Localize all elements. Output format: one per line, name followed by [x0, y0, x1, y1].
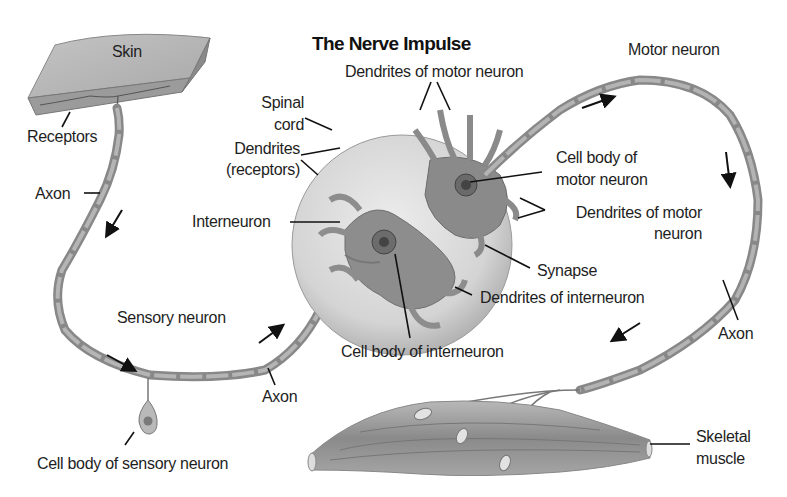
label-dendrites-receptors-line2: (receptors) — [196, 161, 300, 179]
arrow-up-right-icon — [259, 326, 282, 343]
label-spinal-cord-line2: cord — [240, 116, 304, 134]
label-axon-motor: Axon — [718, 325, 753, 343]
label-cell-body-motor-line1: Cell body of — [556, 149, 637, 167]
label-axon-sensory-lower: Axon — [262, 388, 297, 406]
label-skin: Skin — [112, 43, 142, 61]
arrow-down-left-icon — [107, 210, 122, 235]
label-cell-body-motor-line2: motor neuron — [556, 171, 648, 189]
skeletal-muscle — [308, 401, 652, 476]
label-motor-neuron: Motor neuron — [628, 41, 720, 59]
nerve-impulse-diagram: The Nerve Impulse Skin Receptors Axon Sp… — [0, 0, 787, 497]
diagram-title: The Nerve Impulse — [312, 33, 471, 55]
spinal-cord — [292, 110, 516, 355]
label-dendrites-motor-top: Dendrites of motor neuron — [345, 63, 523, 81]
label-cell-body-sensory: Cell body of sensory neuron — [37, 455, 228, 473]
label-axon-sensory-upper: Axon — [35, 185, 70, 203]
label-dendrites-motor-right-line2: neuron — [540, 225, 702, 243]
arrow-down-left-icon — [613, 323, 640, 340]
label-dendrites-interneuron: Dendrites of interneuron — [480, 289, 644, 307]
arrow-down-icon — [726, 152, 730, 185]
label-sensory-neuron: Sensory neuron — [117, 309, 226, 327]
label-skeletal-muscle-line2: muscle — [696, 450, 745, 468]
label-cell-body-interneuron: Cell body of interneuron — [341, 343, 504, 361]
label-spinal-cord-line1: Spinal — [240, 94, 304, 112]
label-dendrites-motor-right-line1: Dendrites of motor — [540, 204, 702, 222]
label-interneuron: Interneuron — [192, 213, 271, 231]
label-dendrites-receptors-line1: Dendrites — [196, 140, 300, 158]
label-receptors: Receptors — [27, 128, 97, 146]
label-skeletal-muscle-line1: Skeletal — [696, 428, 751, 446]
label-synapse: Synapse — [537, 262, 597, 280]
